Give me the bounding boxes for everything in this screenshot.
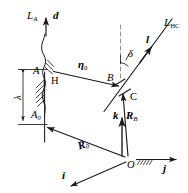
label-eta0: η0 [78, 59, 87, 72]
label-j-vector: j [163, 163, 166, 174]
label-L-HC: LHC [164, 17, 180, 30]
label-RB-vector: RB [126, 110, 138, 123]
label-d-vector: d [53, 10, 59, 21]
label-origin-O: O [127, 160, 135, 171]
label-lambda: λ [12, 95, 23, 100]
angle-arc-delta [121, 63, 129, 67]
label-point-H: H [51, 76, 59, 87]
label-point-B: B [107, 73, 113, 84]
figure-root: LA d LHC l η0 A H λ A0 B δ C k RB R0 O j… [0, 0, 188, 193]
i-vector [71, 162, 126, 186]
label-delta: δ [128, 49, 133, 60]
label-point-A: A [33, 66, 39, 77]
label-L-A: LA [27, 10, 37, 23]
label-l-vector: l [146, 34, 149, 45]
line-LHC [104, 19, 172, 112]
l-vector [140, 47, 152, 63]
wave-strand-upper [45, 60, 54, 74]
label-k-vector: k [113, 110, 119, 121]
wall-hatching [36, 80, 44, 107]
label-i-vector: i [62, 170, 65, 181]
label-point-C: C [130, 92, 137, 103]
diagram-canvas [0, 0, 188, 193]
ground-hatching [138, 160, 153, 165]
label-point-A0: A0 [31, 110, 41, 121]
RB-vector [123, 94, 128, 156]
